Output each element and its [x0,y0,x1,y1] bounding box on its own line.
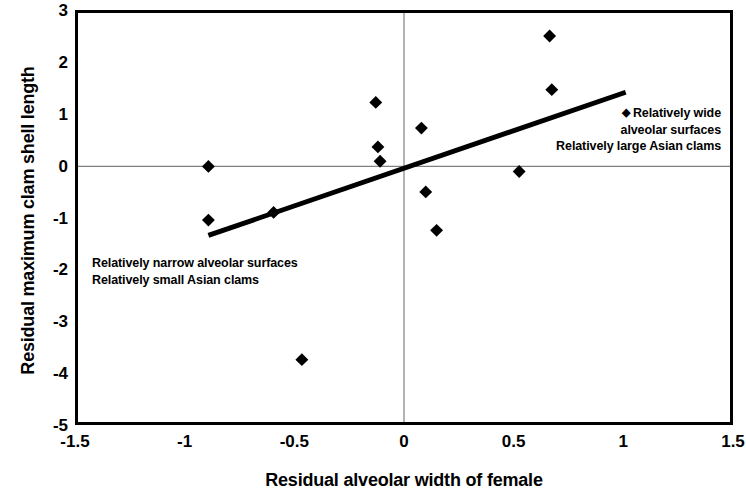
data-point [430,224,443,237]
y-axis-tick-7: -4 [16,365,68,382]
plot-svg [78,13,730,422]
y-axis-tick-6: -3 [16,313,68,330]
y-axis-tick-labels: 3210-1-2-3-4-5 [10,0,68,501]
data-point [513,165,526,178]
data-point [369,96,382,109]
x-axis-tick-3: 0 [369,433,439,450]
data-point [543,30,556,43]
y-axis-tick-1: 2 [16,54,68,71]
y-axis-tick-0: 3 [16,2,68,19]
annotation-line: alveolar surfaces [556,122,721,139]
y-axis-tick-2: 1 [16,106,68,123]
annotation-lower-left: Relatively narrow alveolar surfacesRelat… [92,255,298,288]
annotation-line: Relatively narrow alveolar surfaces [92,255,298,272]
data-point [545,83,558,96]
data-point [202,160,215,173]
y-axis-tick-5: -2 [16,261,68,278]
x-axis-tick-1: -1 [150,433,220,450]
x-axis-tick-6: 1.5 [698,433,746,450]
x-axis-tick-2: -0.5 [259,433,329,450]
plot-area: Relatively narrow alveolar surfacesRelat… [75,10,733,425]
x-axis-tick-0: -1.5 [40,433,110,450]
data-point [374,155,387,168]
data-point [295,353,308,366]
x-axis-tick-labels: -1.5-1-0.500.511.5 [0,433,746,459]
x-axis-tick-5: 1 [588,433,658,450]
annotation-line: ◆ Relatively wide [556,105,721,122]
x-axis-tick-4: 0.5 [479,433,549,450]
diamond-marker-icon: ◆ [622,106,633,118]
data-point [419,186,432,199]
data-points [202,30,558,366]
data-point [415,122,428,135]
annotation-line: Relatively small Asian clams [92,272,298,289]
scatter-chart-figure: Residual maximum clam shell length 3210-… [0,0,746,501]
y-axis-tick-3: 0 [16,158,68,175]
y-axis-tick-4: -1 [16,210,68,227]
data-point [371,141,384,154]
annotation-upper-right: ◆ Relatively widealveolar surfacesRelati… [556,105,721,155]
data-point [202,214,215,227]
reference-lines [78,13,730,422]
x-axis-title: Residual alveolar width of female [75,470,733,491]
annotation-line: Relatively large Asian clams [556,138,721,155]
